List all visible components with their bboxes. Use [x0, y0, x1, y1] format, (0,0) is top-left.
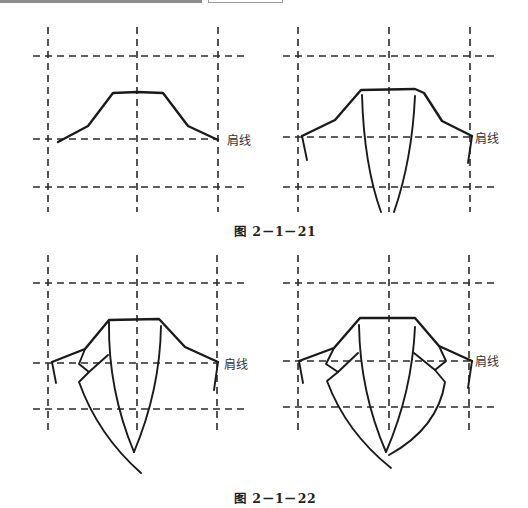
- panel-3-shoulder-label: 肩线: [224, 355, 248, 372]
- panel-2-grid: [283, 27, 498, 212]
- panel-2-shoulder-label: 肩线: [475, 129, 499, 146]
- panel-1-grid: [33, 27, 247, 212]
- panel-1-shoulder-outline: [58, 92, 218, 142]
- collar-construction-diagrams: [0, 0, 528, 508]
- panel-4-shoulder-label: 肩线: [475, 352, 499, 369]
- panel-3-lapel-outline: [52, 319, 218, 473]
- panel-4-grid: [283, 255, 498, 433]
- panel-4-lapel-outline: [299, 318, 472, 468]
- panel-3-grid: [33, 255, 247, 433]
- panel-1-shoulder-label: 肩线: [227, 131, 251, 148]
- panel-2-shoulder-outline: [302, 89, 472, 212]
- figure-caption-2-1-21: 图 2－1－21: [234, 221, 316, 240]
- figure-caption-2-1-22: 图 2－1－22: [234, 488, 316, 507]
